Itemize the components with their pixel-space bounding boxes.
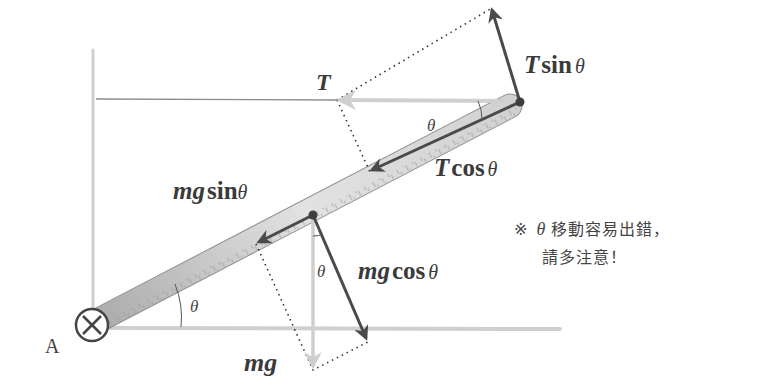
pivot-label: A	[45, 336, 59, 356]
label-tension: T	[316, 70, 331, 94]
angle-label-weight: θ	[317, 263, 325, 280]
tension-sin-arrow	[492, 10, 520, 102]
rod	[84, 90, 526, 336]
angle-label-base: θ	[190, 298, 198, 315]
label-tension-sin: Tsinθ	[524, 52, 585, 77]
rope-attachment-point	[516, 98, 525, 107]
label-weight-sin: mgsinθ	[173, 178, 247, 203]
reference-mark: ※	[514, 220, 527, 239]
rope-line	[96, 99, 337, 100]
label-weight-cos: mgcosθ	[358, 258, 438, 283]
note-line-2: 請多注意！	[542, 250, 627, 266]
note-line-1: ※ θ移動容易出錯，	[514, 220, 670, 238]
center-of-mass-point	[309, 211, 318, 220]
tension-parallelogram	[337, 8, 492, 100]
pivot-hinge-icon	[76, 309, 108, 341]
label-tension-cos: Tcosθ	[434, 155, 497, 180]
tension-arrow	[340, 100, 520, 101]
label-weight: mg	[244, 350, 277, 376]
diagram-canvas	[0, 0, 758, 392]
angle-label-rope: θ	[427, 117, 435, 134]
floor-line	[100, 328, 560, 329]
